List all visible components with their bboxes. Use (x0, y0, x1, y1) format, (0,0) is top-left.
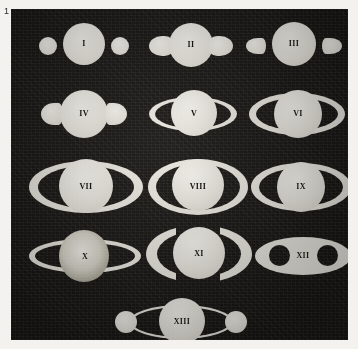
figure-vii[interactable]: VII (29, 157, 143, 217)
figure-label-iii: III (289, 40, 300, 48)
ansa-right-iii (322, 38, 342, 54)
ring-hole-left-xii (269, 245, 290, 266)
figure-i[interactable]: I (33, 19, 133, 75)
figure-xiii[interactable]: XIII (115, 297, 247, 340)
ansa-right-iv (105, 103, 127, 125)
ring-hole-right-xii (317, 245, 338, 266)
figure-label-vi: VI (293, 110, 303, 118)
figure-viii[interactable]: VIII (146, 157, 250, 217)
ansa-right-i (111, 37, 129, 55)
figure-xi[interactable]: XI (146, 223, 252, 287)
figure-v[interactable]: V (143, 89, 247, 139)
ansa-left-iii (246, 38, 266, 54)
figure-label-v: V (191, 110, 197, 118)
engraving-plate: I II III IV V (11, 9, 348, 340)
figure-iv[interactable]: IV (33, 89, 137, 139)
figure-label-xiii: XIII (174, 318, 191, 326)
ansa-right-ii (207, 36, 233, 56)
figure-label-ix: IX (296, 183, 306, 191)
figure-label-xii: XII (296, 252, 309, 260)
figure-label-xi: XI (194, 250, 204, 258)
ansa-globe-right-xiii (225, 311, 247, 333)
figure-label-viii: VIII (190, 183, 207, 191)
figure-label-ii: II (187, 41, 194, 49)
figure-ix[interactable]: IX (251, 159, 348, 215)
figure-xii[interactable]: XII (255, 233, 348, 279)
ansa-globe-left-xiii (115, 311, 137, 333)
plate-number: 1 (4, 6, 9, 16)
page-root: 1 I II III IV (0, 0, 358, 349)
figure-ii[interactable]: II (141, 19, 241, 75)
ansa-left-i (39, 37, 57, 55)
figure-iii[interactable]: III (243, 19, 343, 75)
figure-label-x: X (82, 253, 88, 261)
figure-vi[interactable]: VI (247, 87, 348, 141)
figure-x[interactable]: X (29, 227, 141, 285)
figure-label-vii: VII (79, 183, 92, 191)
figure-label-i: I (82, 40, 86, 48)
figure-label-iv: IV (79, 110, 89, 118)
